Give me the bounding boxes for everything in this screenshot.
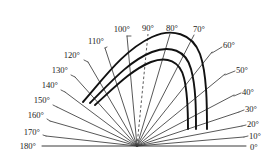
trajectory-arc-group: [83, 33, 207, 129]
ray-50: [137, 74, 225, 146]
leader-110: [105, 47, 107, 48]
angle-label-140: 140°: [42, 80, 59, 90]
angle-label-80: 80°: [166, 23, 179, 33]
leader-50: [225, 71, 235, 75]
angle-label-150: 150°: [34, 95, 51, 105]
angle-label-10: 10°: [249, 131, 262, 141]
leader-160: [47, 119, 50, 121]
angle-label-90: 90°: [142, 23, 155, 33]
trajectory-arc-middle: [90, 49, 196, 129]
angle-label-120: 120°: [64, 50, 81, 60]
angle-label-60: 60°: [223, 40, 236, 50]
leader-30: [239, 110, 244, 112]
angle-label-0: 0°: [250, 142, 258, 152]
angle-label-group-right: 60° 50° 40° 30° 20° 10° 0°: [223, 40, 262, 152]
angle-label-130: 130°: [52, 65, 69, 75]
angle-label-170: 170°: [24, 127, 41, 137]
ray-90-dashed: [137, 34, 148, 146]
leader-10: [244, 136, 248, 137]
leader-120: [84, 60, 88, 62]
angle-label-180: 180°: [20, 141, 37, 151]
leader-170: [43, 135, 46, 136]
leader-40: [234, 93, 241, 96]
leader-140: [61, 90, 65, 92]
leader-150: [53, 105, 57, 107]
angle-label-40: 40°: [242, 87, 255, 97]
angle-label-110: 110°: [88, 36, 105, 46]
angle-label-20: 20°: [247, 119, 260, 129]
trajectory-arc-inner: [95, 60, 188, 129]
figure-canvas: 180° 170° 160° 150° 140° 130° 120° 110° …: [0, 0, 278, 164]
leader-20: [242, 125, 246, 126]
leader-130: [71, 75, 75, 77]
ray-20: [137, 126, 242, 146]
ray-10: [137, 137, 244, 146]
angle-label-70: 70°: [193, 24, 206, 34]
angle-label-160: 160°: [28, 110, 45, 120]
angle-label-50: 50°: [236, 65, 249, 75]
angle-label-group-top: 90° 80° 70°: [142, 23, 206, 34]
ray-60: [137, 52, 212, 146]
protractor-diagram: 180° 170° 160° 150° 140° 130° 120° 110° …: [0, 0, 278, 164]
leader-60: [212, 47, 222, 53]
angle-label-100: 100°: [114, 24, 131, 34]
angle-label-30: 30°: [245, 104, 258, 114]
ray-40: [137, 95, 234, 146]
ray-170: [46, 136, 137, 146]
